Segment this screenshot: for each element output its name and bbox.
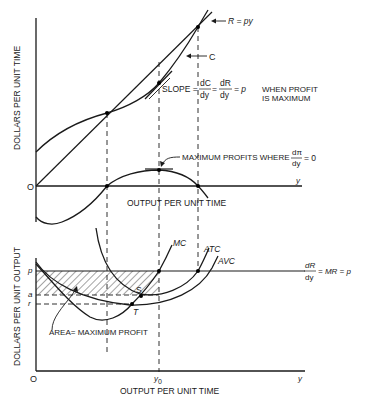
y0-label: y0 xyxy=(153,374,162,385)
atc-label: ATC xyxy=(203,244,221,254)
svg-text:dy: dy xyxy=(220,90,230,100)
a-label: a xyxy=(28,290,33,299)
svg-text:=: = xyxy=(212,84,217,94)
bottom-origin-label: O xyxy=(30,374,37,384)
price-label: p xyxy=(27,266,33,275)
svg-text:= MR = p: = MR = p xyxy=(318,267,351,276)
bottom-y-axis-label: DOLLARS PER UNIT OUTPUT xyxy=(12,247,22,366)
s-label: S xyxy=(136,285,142,295)
point-p-atc xyxy=(196,269,200,273)
avc-label: AVC xyxy=(217,256,236,266)
svg-text:dy: dy xyxy=(292,159,300,168)
svg-text:SLOPE =: SLOPE = xyxy=(162,84,198,94)
svg-text:= 0: = 0 xyxy=(304,153,316,163)
arrowhead-icon xyxy=(186,54,191,59)
arrowhead-icon xyxy=(211,19,216,24)
t-label: T xyxy=(133,307,139,317)
max-profit-annotation: MAXIMUM PROFITS WHERE dπ dy = 0 xyxy=(160,148,316,168)
svg-text:dR: dR xyxy=(220,78,231,88)
point-zero-profit-2 xyxy=(196,184,200,188)
top-y-axis-label: DOLLARS PER UNIT TIME xyxy=(12,46,22,150)
bottom-x-end-label: y xyxy=(297,374,303,383)
point-breakeven-1 xyxy=(105,111,109,115)
point-tangency xyxy=(157,81,161,85)
svg-text:dy: dy xyxy=(305,273,313,282)
bottom-x-axis-label: OUTPUT PER UNIT TIME xyxy=(120,386,220,396)
top-origin-label: O xyxy=(27,182,34,192)
profit-maximization-diagram: DOLLARS PER UNIT TIME O y OUTPUT PER UNI… xyxy=(0,0,365,403)
point-max-profit xyxy=(157,168,161,172)
cost-label: C xyxy=(209,52,216,62)
revenue-label: R = py xyxy=(228,16,254,26)
svg-text:IS MAXIMUM: IS MAXIMUM xyxy=(262,94,311,103)
point-zero-profit-1 xyxy=(105,184,109,188)
mr-annotation: dR dy = MR = p xyxy=(304,261,351,282)
svg-text:dC: dC xyxy=(200,78,211,88)
slope-annotation: SLOPE = dC dy = dR dy = p WHEN PROFIT IS… xyxy=(162,78,318,103)
svg-text:dy: dy xyxy=(200,90,210,100)
bottom-panel: DOLLARS PER UNIT OUTPUT p a r MC ATC AVC… xyxy=(12,228,351,396)
point-t xyxy=(130,302,134,306)
point-breakeven-2 xyxy=(196,25,200,29)
area-label: AREA= MAXIMUM PROFIT xyxy=(49,328,148,337)
point-p-mc xyxy=(157,269,161,273)
r-label: r xyxy=(28,299,31,308)
top-panel: DOLLARS PER UNIT TIME O y OUTPUT PER UNI… xyxy=(12,10,318,372)
svg-text:WHEN PROFIT: WHEN PROFIT xyxy=(262,85,318,94)
svg-text:dπ: dπ xyxy=(292,148,302,157)
svg-text:= p: = p xyxy=(234,84,246,94)
svg-text:dR: dR xyxy=(305,261,315,270)
svg-text:MAXIMUM PROFITS WHERE: MAXIMUM PROFITS WHERE xyxy=(182,153,290,162)
top-x-axis-label: OUTPUT PER UNIT TIME xyxy=(127,198,227,208)
top-x-end-label: y xyxy=(295,176,301,185)
cost-curve xyxy=(36,10,208,152)
mc-label: MC xyxy=(173,238,187,248)
